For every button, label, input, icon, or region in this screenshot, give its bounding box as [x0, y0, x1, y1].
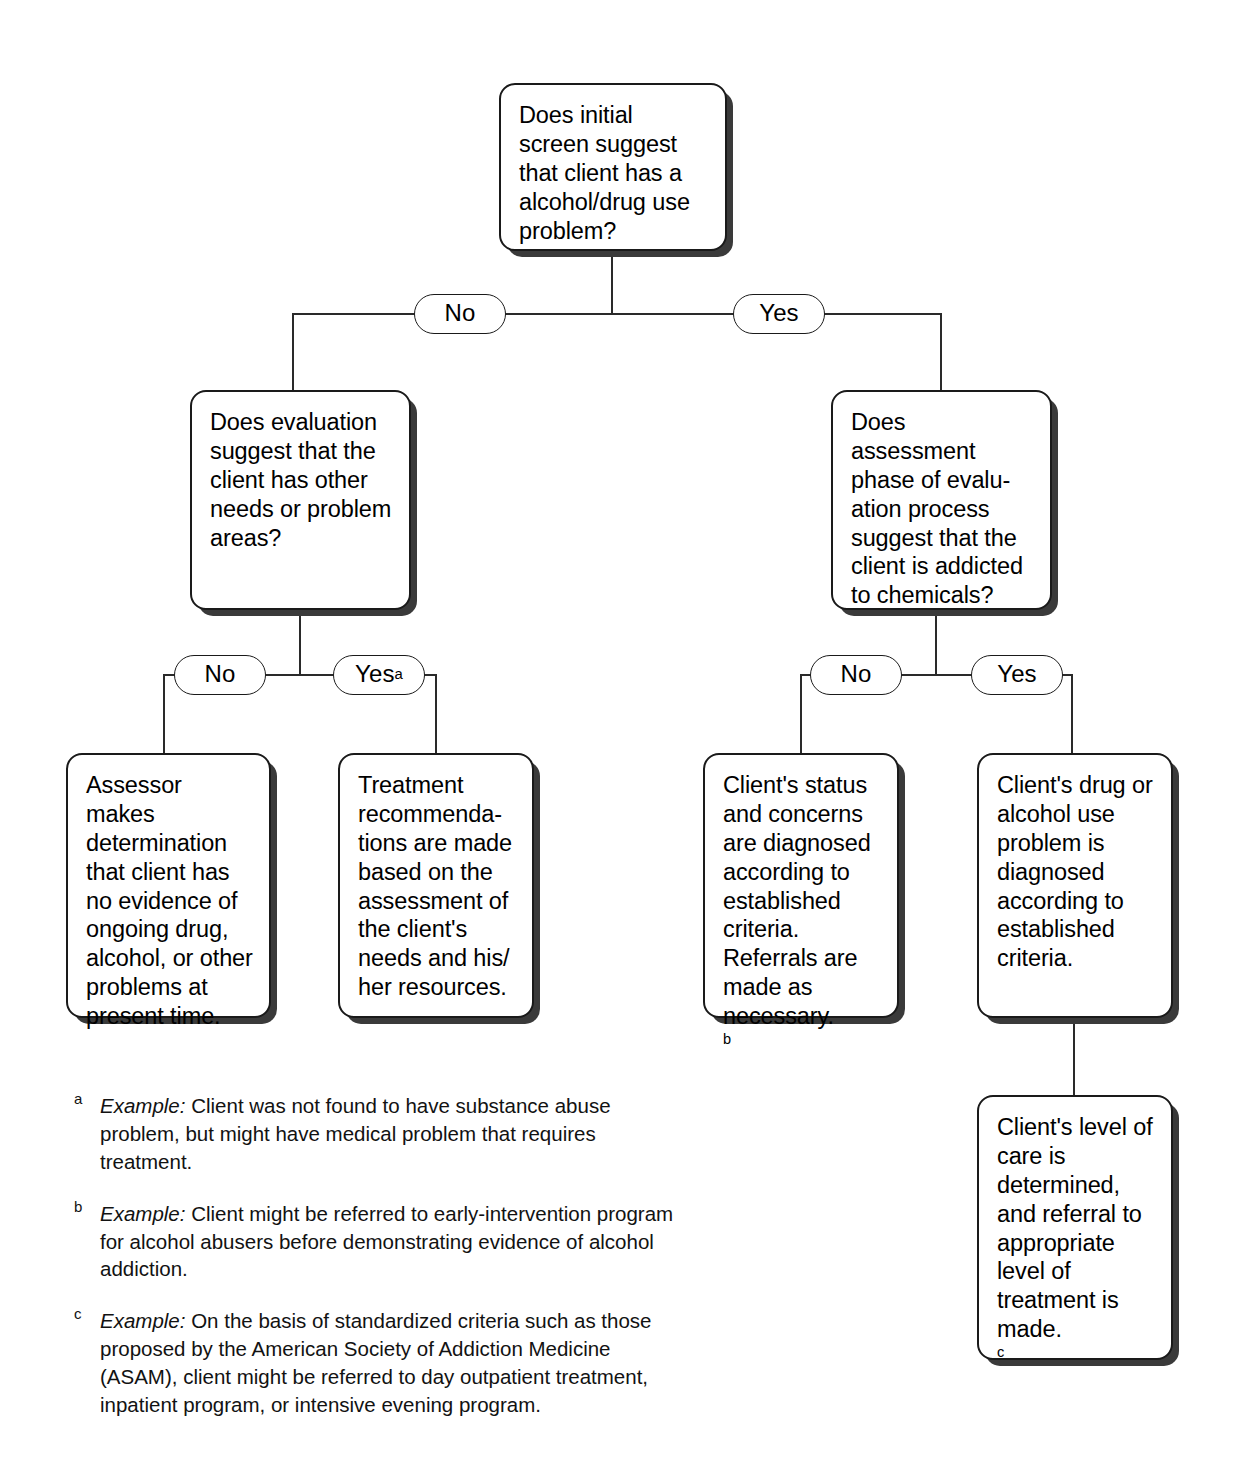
- footnote-b-marker: b: [74, 1197, 82, 1217]
- branch-label-left-no: No: [174, 655, 266, 695]
- footnote-c-lead: Example:: [100, 1309, 185, 1332]
- branch-label-left-yes-text: Yes: [355, 660, 394, 688]
- node-right-final-outcome-text: Client's level of care is determined, an…: [997, 1113, 1155, 1344]
- connector-final-drop: [1073, 1018, 1075, 1096]
- node-right-no-outcome-text: Client's status and concerns are diagnos…: [723, 771, 881, 1031]
- connector-left-no-drop: [163, 674, 165, 755]
- footnote-b-body: Client might be referred to early-interv…: [100, 1202, 673, 1281]
- footnote-b: b Example: Client might be referred to e…: [74, 1200, 674, 1284]
- node-root-question-text: Does initial screen suggest that client …: [519, 101, 709, 245]
- connector-root-no-drop: [292, 313, 294, 391]
- branch-label-right-no-text: No: [841, 660, 872, 688]
- node-right-decision: Does assessment phase of evalu- ation pr…: [831, 390, 1052, 610]
- node-left-decision: Does evaluation suggest that the client …: [190, 390, 411, 610]
- node-right-yes-outcome-text: Client's drug or alcohol use problem is …: [997, 771, 1155, 973]
- node-left-no-outcome: Assessor makes determination that client…: [66, 753, 271, 1018]
- branch-label-root-no: No: [414, 294, 506, 334]
- footnote-a-marker: a: [74, 1089, 82, 1109]
- node-left-decision-text: Does evaluation suggest that the client …: [210, 408, 393, 552]
- footnote-a: a Example: Client was not found to have …: [74, 1092, 674, 1176]
- node-right-final-outcome-footnote-ref: c: [997, 1344, 1004, 1360]
- branch-label-root-yes-text: Yes: [759, 299, 798, 327]
- branch-label-right-no: No: [810, 655, 902, 695]
- connector-right-no-drop: [800, 674, 802, 755]
- branch-label-root-yes: Yes: [733, 294, 825, 334]
- footnote-c: c Example: On the basis of standardized …: [74, 1307, 674, 1419]
- connector-right-yes-drop: [1071, 674, 1073, 755]
- footnote-b-lead: Example:: [100, 1202, 185, 1225]
- branch-label-left-yes: Yesa: [333, 655, 425, 695]
- node-left-yes-outcome: Treatment recommenda- tions are made bas…: [338, 753, 534, 1018]
- node-right-no-outcome: Client's status and concerns are diagnos…: [703, 753, 899, 1018]
- flowchart-canvas: Does initial screen suggest that client …: [0, 0, 1248, 1468]
- footnote-a-lead: Example:: [100, 1094, 185, 1117]
- footnote-c-marker: c: [74, 1304, 82, 1324]
- node-right-final-outcome: Client's level of care is determined, an…: [977, 1095, 1173, 1360]
- branch-label-right-yes: Yes: [971, 655, 1063, 695]
- node-left-no-outcome-text: Assessor makes determination that client…: [86, 771, 253, 1031]
- connector-right-decision-stem: [935, 607, 937, 675]
- branch-label-left-no-text: No: [205, 660, 236, 688]
- footnotes-section: a Example: Client was not found to have …: [74, 1092, 674, 1443]
- connector-root-yes-drop: [940, 313, 942, 391]
- connector-root-stem: [611, 250, 613, 314]
- connector-left-yes-drop: [435, 674, 437, 755]
- connector-left-decision-stem: [299, 607, 301, 675]
- node-right-no-outcome-footnote-ref: b: [723, 1031, 731, 1047]
- node-root-question: Does initial screen suggest that client …: [499, 83, 727, 251]
- branch-label-root-no-text: No: [445, 299, 476, 327]
- node-left-yes-outcome-text: Treatment recommenda- tions are made bas…: [358, 771, 516, 1002]
- node-right-decision-text: Does assessment phase of evalu- ation pr…: [851, 408, 1034, 610]
- branch-label-right-yes-text: Yes: [997, 660, 1036, 688]
- node-right-yes-outcome: Client's drug or alcohol use problem is …: [977, 753, 1173, 1018]
